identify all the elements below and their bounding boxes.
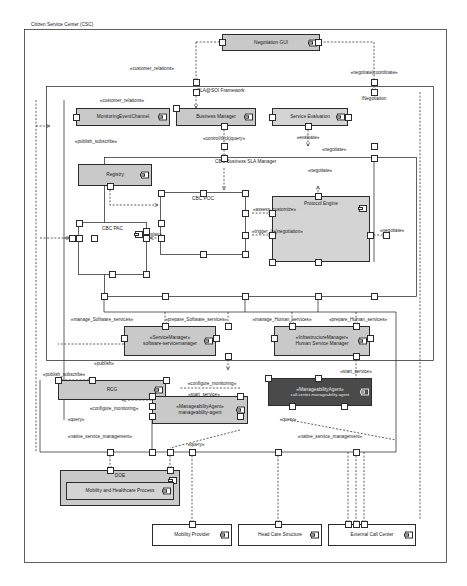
connector-port [371, 155, 378, 162]
component-icon [205, 338, 213, 345]
component-icon [245, 114, 253, 121]
connector-port [367, 232, 374, 239]
component-subtitle: call-center-manageability-agent [291, 392, 349, 397]
connector-port [101, 293, 108, 300]
component-monitoring-event-channel[interactable]: MonitoringEventChannel [76, 108, 170, 126]
component-label: Business Manager [196, 114, 236, 120]
component-label: Registry [106, 172, 124, 178]
connector-port [200, 251, 207, 258]
connector-port [109, 271, 116, 278]
connector-port [289, 403, 296, 410]
component-label: Mobility and Healthcare Process [86, 488, 155, 494]
connector-port [237, 413, 244, 420]
connector-port [315, 375, 322, 382]
component-label: CBC POC [192, 196, 214, 202]
component-service-manager[interactable]: «ServiceManager» software-servicemanager [124, 326, 216, 356]
component-registry[interactable]: Registry [78, 164, 152, 186]
connector-port [76, 235, 83, 242]
connector-port [315, 259, 322, 266]
connector-port [371, 143, 378, 150]
component-label: CBC PAC [102, 226, 123, 232]
connector-port [163, 377, 170, 384]
connector-port [242, 232, 249, 239]
connector-port [242, 293, 249, 300]
frame-title-slasoi: SLA@SOI Framework [196, 88, 246, 93]
connector-port [371, 293, 378, 300]
connector-port [265, 375, 272, 382]
component-icon [221, 532, 229, 539]
connector-port [107, 183, 114, 190]
connector-port [315, 39, 322, 46]
connector-port [383, 232, 390, 239]
stereotype-publish-subscribe-top: «publish_subscribe» [75, 139, 117, 144]
stereotype-negotiate-mid: «negotiate» [308, 168, 332, 173]
connector-port [89, 377, 96, 384]
connector-port [143, 228, 150, 235]
connector-port [353, 323, 360, 330]
connector-port [149, 393, 156, 400]
connector-port [189, 449, 196, 456]
component-icon [405, 532, 413, 539]
connector-port [143, 235, 150, 242]
component-label: RCG [107, 387, 118, 393]
component-call-center-agent[interactable]: «ManageabilityAgent» call-center-managea… [268, 378, 372, 406]
component-negotiation-gui[interactable]: Negotiation GUI [222, 34, 320, 51]
connector-port [361, 521, 368, 528]
connector-port [353, 521, 360, 528]
stereotype-publish: «publish» [94, 361, 114, 366]
connector-port [225, 353, 232, 360]
component-mobility-healthcare-process[interactable]: Mobility and Healthcare Process [66, 482, 174, 500]
component-business-manager[interactable]: Business Manager [176, 108, 256, 126]
stereotype-configure-monitoring-left: «configure_monitoring» [90, 406, 138, 411]
connector-port [76, 220, 83, 227]
connector-port [353, 449, 360, 456]
component-label: Head Care Structure [258, 532, 302, 538]
component-cbc-poc[interactable]: CBC POC [161, 193, 245, 254]
connector-port [200, 190, 207, 197]
connector-port [371, 79, 378, 86]
component-label: MonitoringEventChannel [97, 114, 150, 120]
connector-port [149, 449, 156, 456]
connector-port [69, 235, 76, 242]
connector-port [345, 521, 352, 528]
connector-port [242, 210, 249, 217]
component-icon [311, 532, 319, 539]
connector-port [158, 190, 165, 197]
stereotype-query-right: «query» [280, 417, 297, 422]
connector-port [371, 89, 378, 96]
connector-port [269, 232, 276, 239]
connector-port [219, 39, 226, 46]
component-external-call-center[interactable]: External Call Center [328, 524, 416, 546]
component-subtitle: manageability-agent [178, 410, 221, 416]
stereotype-prepare-human-services: «prepare_Human_services» [329, 317, 387, 322]
component-cbc-pac[interactable]: CBC PAC [79, 223, 146, 274]
stereotype-negotiate-top: «negotiate» [322, 147, 346, 152]
stereotype-manage-human-services: «manage_Human_services» [253, 317, 312, 322]
connector-port [305, 123, 312, 130]
connector-port [167, 467, 174, 474]
stereotype-configure-monitoring-right: «configure_monitoring» [188, 381, 236, 386]
component-label: Mobility Provider [174, 532, 209, 538]
stereotype-start-service-right: «start_service» [340, 369, 371, 374]
component-label: Negotiation GUI [254, 40, 288, 46]
stereotype-native-service-management-left: «native_service_management» [68, 434, 132, 439]
component-icon [159, 114, 167, 121]
connector-port [158, 235, 165, 242]
component-manageability-agent[interactable]: «ManageabilityAgent» manageability-agent [152, 396, 248, 424]
connector-port [237, 393, 244, 400]
connector-port [173, 105, 180, 112]
component-icon [141, 172, 149, 179]
connector-port [91, 235, 98, 242]
connector-port [269, 210, 276, 217]
connector-port [315, 293, 322, 300]
connector-port [143, 271, 150, 278]
stereotype-customer-relations-top: «customer_relations» [130, 66, 174, 71]
component-human-service-manager[interactable]: «InfrastructureManager» Human Service Ma… [274, 326, 370, 356]
stereotype-negotiate-coordinate: «negotiate|coordinate» [350, 70, 397, 75]
connector-port [149, 403, 156, 410]
component-icon [163, 488, 171, 495]
connector-port [221, 143, 228, 150]
connector-port [269, 114, 276, 121]
component-icon [359, 338, 367, 345]
component-icon [337, 114, 345, 121]
